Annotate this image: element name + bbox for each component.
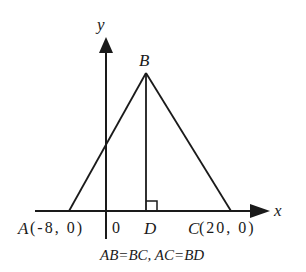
point-a-coords: (-8, 0): [30, 219, 84, 237]
caption: AB=BC, AC=BD: [99, 247, 204, 263]
y-axis-label: y: [95, 15, 105, 34]
point-a-label: A: [17, 219, 29, 238]
segment-ab: [69, 73, 146, 211]
x-axis: [35, 204, 270, 218]
y-axis-arrow-icon: [99, 37, 113, 53]
x-axis-label: x: [273, 201, 282, 220]
point-c-coords: (20, 0): [199, 219, 256, 237]
coordinate-diagram: y x B A (-8, 0) 0 D C (20, 0) AB=BC, AC=…: [0, 0, 306, 272]
origin-label: 0: [112, 219, 122, 236]
right-angle-marker: [146, 201, 157, 211]
point-d-label: D: [143, 219, 157, 238]
x-axis-arrow-icon: [250, 204, 270, 218]
segment-bc: [146, 73, 231, 211]
y-axis: [99, 37, 113, 239]
triangle-abc: [69, 73, 231, 211]
point-b-label: B: [139, 51, 150, 70]
